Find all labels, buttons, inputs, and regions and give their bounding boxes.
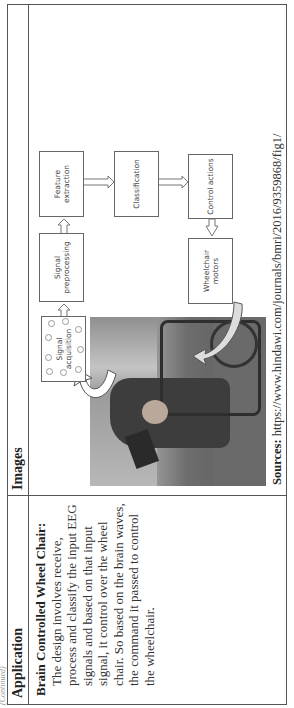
sources-label: Sources: (270, 439, 284, 485)
header-application: Application (10, 628, 26, 698)
column-divider (8, 495, 286, 496)
box-wheelchair-motors: Wheelchair motors (188, 238, 233, 304)
application-description: The design involves receive, process and… (49, 500, 158, 696)
box-feature-extraction: Feature extraction (39, 151, 84, 217)
label-signal-acquisition: Signal acquisition (55, 319, 73, 379)
application-title: Brain Controlled Wheel Chair: (33, 523, 48, 696)
application-table: Application Images Brain Controlled Whee… (7, 4, 287, 705)
sources-line: Sources: https://www.hindawi.com/journal… (270, 134, 285, 485)
header-images: Images (10, 447, 26, 490)
label-classification: Classification (132, 159, 141, 209)
box-signal-acquisition: Signal acquisition (41, 316, 86, 382)
label-feature-extraction: Feature extraction (53, 154, 71, 214)
application-cell: Brain Controlled Wheel Chair: The design… (33, 500, 157, 696)
box-signal-preprocessing: Signal preprocessing (39, 233, 84, 302)
box-classification: Classification (114, 151, 159, 217)
label-wheelchair-motors: Wheelchair motors (202, 241, 220, 301)
sources-url[interactable]: https://www.hindawi.com/journals/bmri/20… (270, 134, 284, 437)
rotated-page: (Continued) Application Images Brain Con… (0, 0, 294, 708)
continued-label: (Continued) (0, 666, 7, 705)
label-signal-preprocessing: Signal preprocessing (53, 236, 71, 299)
box-control-actions: Control actions (188, 154, 233, 219)
header-divider (28, 5, 29, 704)
label-control-actions: Control actions (206, 158, 215, 215)
wheelchair-photo (90, 317, 266, 486)
